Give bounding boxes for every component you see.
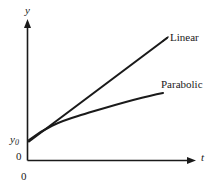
- linear-curve: [29, 38, 167, 142]
- x-axis-arrowhead-icon: [187, 157, 196, 164]
- figure-container: y t y0 0 0 Linear Parabolic: [0, 0, 217, 193]
- y-axis-arrowhead-icon: [24, 19, 31, 28]
- x-axis: [28, 157, 197, 164]
- y-intercept-label: y0: [10, 134, 19, 145]
- x-axis-label: t: [201, 152, 204, 163]
- linear-curve-label: Linear: [170, 32, 199, 43]
- parabolic-curve: [29, 93, 163, 140]
- y-intercept-subscript: 0: [15, 138, 19, 147]
- y-axis-label: y: [25, 5, 30, 16]
- origin-label: 0: [21, 171, 27, 182]
- plot-canvas: [0, 0, 217, 193]
- parabolic-curve-label: Parabolic: [161, 79, 203, 90]
- y-axis-zero-tick-label: 0: [16, 151, 22, 162]
